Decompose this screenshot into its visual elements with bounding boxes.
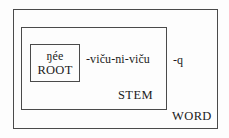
- stem-label: STEM: [118, 88, 153, 103]
- morphology-diagram: ŋée ROOT -viču-ni-viču -q STEM WORD: [0, 0, 229, 138]
- word-label: WORD: [172, 109, 212, 124]
- root-label: ROOT: [37, 63, 72, 78]
- root-box: ŋée ROOT: [30, 44, 80, 82]
- word-affix-text: -q: [173, 52, 183, 68]
- stem-affix-text: -viču-ni-viču: [86, 51, 150, 67]
- root-form-text: ŋée: [46, 49, 63, 63]
